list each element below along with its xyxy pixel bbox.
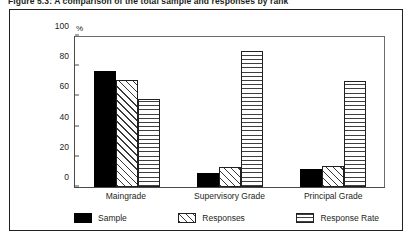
figure-caption: Figure 5.3: A comparison of the total sa… xyxy=(8,0,408,8)
legend-swatch-sample-icon xyxy=(74,213,92,223)
legend-item[interactable]: Responses xyxy=(178,213,245,223)
y-axis-tick-label: 100 xyxy=(55,21,75,31)
bar-groups xyxy=(75,36,385,187)
y-axis-tick-label: 20 xyxy=(60,142,75,152)
chart-legend: SampleResponsesResponse Rate xyxy=(74,213,385,223)
bar-sample[interactable] xyxy=(300,169,322,187)
legend-item[interactable]: Sample xyxy=(74,213,127,223)
bar-responses[interactable] xyxy=(219,167,241,187)
bar-group xyxy=(178,36,281,187)
legend-label: Responses xyxy=(202,213,245,223)
x-axis-category-label: Principal Grade xyxy=(281,191,385,201)
figure-container: Figure 5.3: A comparison of the total sa… xyxy=(0,0,414,241)
bar-rate[interactable] xyxy=(138,99,160,187)
legend-swatch-rate-icon xyxy=(296,213,314,223)
legend-label: Response Rate xyxy=(320,213,379,223)
bar-group xyxy=(75,36,178,187)
x-axis-labels: MaingradeSupervisory GradePrincipal Grad… xyxy=(74,191,385,201)
y-axis-tick-label: 60 xyxy=(60,81,75,91)
bar-responses[interactable] xyxy=(116,80,138,187)
y-axis-tick-label: 80 xyxy=(60,51,75,61)
bar-sample[interactable] xyxy=(197,173,219,187)
legend-item[interactable]: Response Rate xyxy=(296,213,379,223)
x-axis-category-label: Maingrade xyxy=(74,191,178,201)
bar-rate[interactable] xyxy=(241,51,263,187)
x-axis-category-label: Supervisory Grade xyxy=(178,191,282,201)
bar-responses[interactable] xyxy=(322,166,344,187)
bar-sample[interactable] xyxy=(94,71,116,187)
figure-frame: % 020406080100 MaingradeSupervisory Grad… xyxy=(9,9,403,231)
plot-area: 020406080100 xyxy=(74,36,385,188)
y-axis-unit-label: % xyxy=(76,24,83,33)
legend-swatch-responses-icon xyxy=(178,213,196,223)
legend-label: Sample xyxy=(98,213,127,223)
bar-rate[interactable] xyxy=(344,81,366,187)
y-axis-tick-label: 0 xyxy=(64,172,75,182)
bar-group xyxy=(282,36,385,187)
y-axis-tick-label: 40 xyxy=(60,112,75,122)
